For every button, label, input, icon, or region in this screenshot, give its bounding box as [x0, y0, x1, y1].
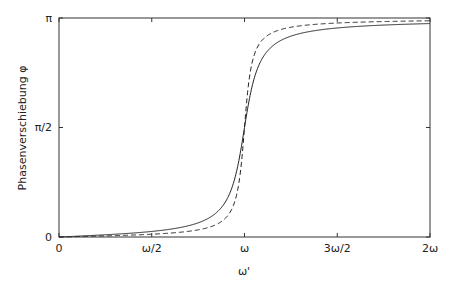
y-tick-label: 0: [45, 231, 52, 244]
x-tick-label: ω: [240, 242, 249, 255]
plot-area: [59, 21, 430, 237]
x-tick-label: 0: [56, 242, 63, 255]
x-tick-label: 3ω/2: [324, 242, 351, 255]
phase-chart: 0ω/2ω3ω/22ω0π/2π ω' Phasenverschiebung φ: [0, 0, 455, 287]
y-tick-label: π/2: [35, 121, 52, 134]
x-axis-label: ω': [238, 265, 250, 278]
y-axis-label: Phasenverschiebung φ: [16, 66, 29, 191]
x-tick-label: 2ω: [422, 242, 438, 255]
y-tick-label: π: [45, 12, 52, 25]
axes: 0ω/2ω3ω/22ω0π/2π: [35, 12, 438, 255]
x-tick-label: ω/2: [142, 242, 162, 255]
